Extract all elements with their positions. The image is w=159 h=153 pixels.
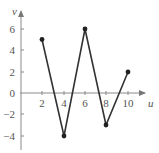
line-chart: 2 4 6 8 10 6 4 2 0 −2 −4 v u	[0, 0, 159, 153]
data-line	[42, 29, 128, 136]
point-6-6	[83, 27, 88, 32]
y-tick-neg4: −4	[3, 130, 15, 142]
y-axis-arrow-icon	[18, 10, 24, 17]
y-tick-labels: 6 4 2 0 −2 −4	[3, 23, 15, 142]
origin-label: 0	[10, 87, 16, 99]
y-tick-6: 6	[10, 23, 16, 35]
y-tick-4: 4	[10, 44, 16, 56]
axes	[20, 12, 145, 150]
y-tick-neg2: −2	[3, 108, 15, 120]
x-tick-6: 6	[82, 97, 88, 109]
point-10-2	[126, 70, 131, 75]
x-tick-2: 2	[39, 97, 45, 109]
y-axis-label: v	[12, 5, 17, 17]
y-tick-2: 2	[10, 66, 16, 78]
x-axis-arrow-icon	[139, 90, 146, 96]
point-4-neg4	[62, 134, 67, 139]
point-8-neg3	[104, 123, 109, 128]
x-axis-label: u	[148, 97, 154, 109]
x-tick-10: 10	[123, 97, 135, 109]
point-2-5	[40, 37, 45, 42]
data-points	[40, 27, 131, 139]
x-tick-4: 4	[61, 97, 67, 109]
x-tick-8: 8	[103, 97, 109, 109]
x-tick-labels: 2 4 6 8 10	[39, 97, 134, 109]
